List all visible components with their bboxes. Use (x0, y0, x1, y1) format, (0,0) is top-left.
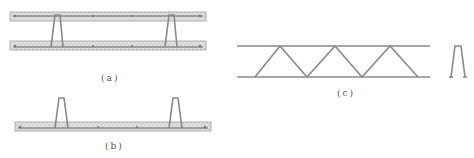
diagram-canvas (0, 0, 474, 158)
panel-c (237, 46, 467, 77)
panel-b (15, 98, 211, 131)
caption-c: (c) (337, 88, 355, 98)
side-profile (451, 46, 465, 77)
caption-b: (b) (105, 141, 124, 151)
panel-a (10, 12, 206, 50)
caption-a: (a) (101, 73, 119, 83)
web-diagonals (255, 46, 418, 77)
